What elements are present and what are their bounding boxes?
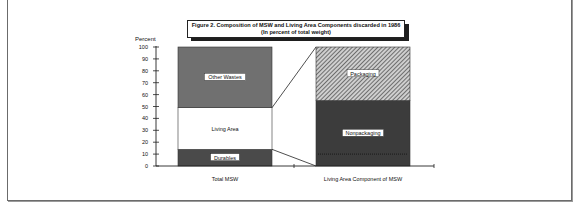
category-labels: Total MSWLiving Area Component of MSW (212, 176, 403, 182)
connectors-group (272, 47, 316, 166)
y-tick-label: 20 (142, 139, 148, 145)
connector-line-top (272, 47, 316, 108)
y-tick-label: 30 (142, 127, 148, 133)
y-axis-label: Percent (135, 36, 156, 42)
x-category-label: Living Area Component of MSW (324, 176, 403, 182)
chart-svg: Percent 0102030405060708090100 DurablesL… (0, 0, 573, 207)
segment-label: Living Area (211, 126, 239, 132)
segment-label: Durables (214, 155, 236, 161)
y-tick-label: 80 (142, 68, 148, 74)
y-tick-label: 90 (142, 56, 148, 62)
connector-line-bottom (272, 149, 316, 166)
y-tick-label: 60 (142, 92, 148, 98)
segment-label: Packaging (350, 71, 376, 77)
x-category-label: Total MSW (212, 176, 239, 182)
y-tick-label: 10 (142, 151, 148, 157)
y-tick-label: 50 (142, 104, 148, 110)
y-tick-label: 100 (139, 44, 148, 50)
y-tick-label: 40 (142, 115, 148, 121)
bars-group: DurablesLiving AreaOther WastesNonpackag… (178, 47, 410, 166)
segment-label: Nonpackaging (345, 130, 380, 136)
y-tick-label: 0 (145, 163, 148, 169)
y-tick-label: 70 (142, 80, 148, 86)
segment-label: Other Wastes (208, 74, 242, 80)
